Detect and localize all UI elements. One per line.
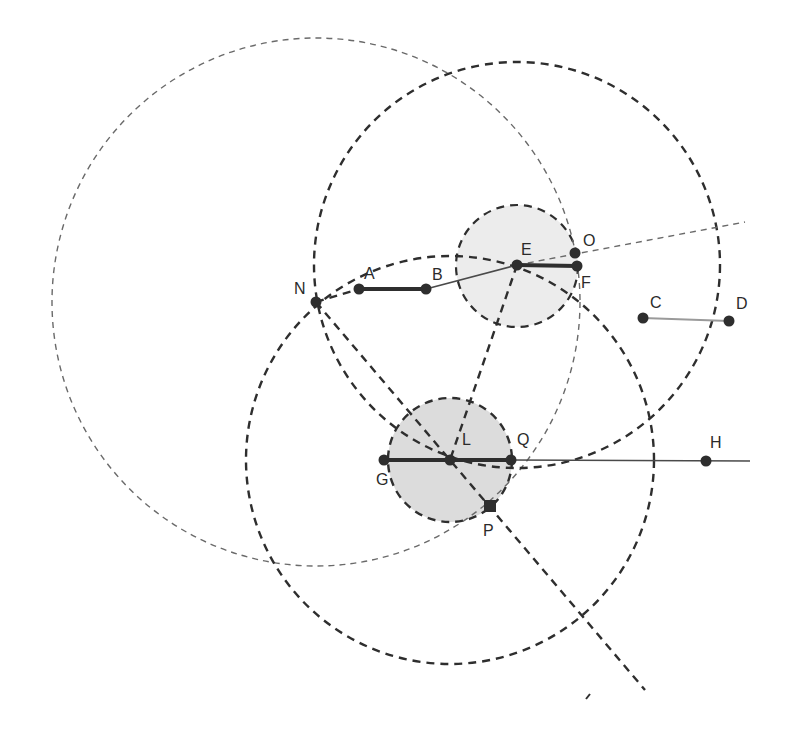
point-P[interactable] (484, 500, 496, 512)
seg-CD (643, 318, 729, 321)
point-N[interactable] (311, 297, 322, 308)
stray-mark (586, 694, 590, 699)
label-C: C (650, 294, 662, 311)
point-E[interactable] (512, 260, 523, 271)
label-D: D (736, 295, 748, 312)
label-L: L (462, 431, 471, 448)
line-N-P (316, 302, 645, 690)
point-O[interactable] (570, 248, 581, 259)
point-C[interactable] (638, 313, 649, 324)
label-H: H (710, 434, 722, 451)
point-L[interactable] (445, 455, 456, 466)
label-E: E (521, 241, 532, 258)
point-F[interactable] (572, 261, 583, 272)
geometry-canvas: NABEOFCDGLQHP (0, 0, 796, 733)
seg-EF (517, 265, 577, 266)
label-F: F (581, 274, 591, 291)
label-A: A (364, 265, 375, 282)
label-Q: Q (517, 431, 529, 448)
point-B[interactable] (421, 284, 432, 295)
label-O: O (583, 232, 595, 249)
point-A[interactable] (354, 284, 365, 295)
point-D[interactable] (724, 316, 735, 327)
ray-Q-H (511, 460, 750, 461)
label-N: N (294, 280, 306, 297)
construction-circles (52, 38, 720, 664)
point-G[interactable] (379, 455, 390, 466)
point-Q[interactable] (506, 455, 517, 466)
label-B: B (432, 266, 443, 283)
point-H[interactable] (701, 456, 712, 467)
label-P: P (483, 522, 494, 539)
label-G: G (376, 471, 388, 488)
